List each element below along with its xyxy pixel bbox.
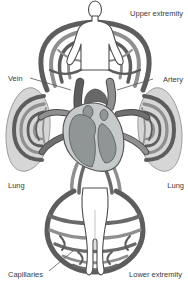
circulatory-system-diagram: Upper extremity Vein Artery Lung Lung Ca… bbox=[0, 0, 188, 282]
upper-body-figure bbox=[67, 1, 123, 70]
label-vein: Vein bbox=[8, 74, 23, 83]
lung-right bbox=[118, 88, 182, 171]
heart-chamber-right bbox=[69, 115, 96, 167]
label-capillaries: Capillaries bbox=[8, 270, 43, 279]
vein-leader-line bbox=[30, 78, 71, 90]
label-lung-left: Lung bbox=[8, 181, 25, 190]
label-artery: Artery bbox=[163, 75, 183, 84]
diagram-canvas: Upper extremity Vein Artery Lung Lung Ca… bbox=[0, 0, 188, 282]
heart-atrium-right bbox=[100, 110, 108, 121]
label-upper-extremity: Upper extremity bbox=[130, 9, 183, 18]
lung-left bbox=[6, 88, 70, 171]
label-lower-extremity: Lower extremity bbox=[129, 270, 182, 279]
label-lung-right: Lung bbox=[167, 181, 184, 190]
